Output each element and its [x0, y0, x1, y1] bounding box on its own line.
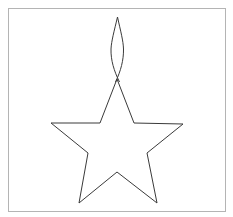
drawing-canvas — [0, 0, 233, 217]
spike-left-edge-path — [111, 17, 120, 82]
star-outline-path — [51, 79, 183, 203]
border-frame — [9, 9, 226, 212]
spike-right-edge-path — [116, 17, 124, 82]
star-figure-svg — [0, 0, 233, 217]
